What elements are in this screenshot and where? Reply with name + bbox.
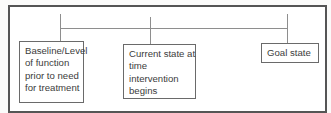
diagram-canvas: Baseline/Level of function prior to need…: [0, 0, 331, 113]
goal-state-node: Goal state: [261, 43, 319, 63]
baseline-tick: [60, 14, 61, 41]
current-label-line-1: Current state at: [129, 48, 191, 60]
current-label-line-3: intervention: [129, 73, 191, 85]
goal-label: Goal state: [267, 47, 314, 59]
baseline-label-line-3: prior to need: [25, 70, 79, 82]
baseline-label-line-4: for treatment: [25, 82, 79, 94]
goal-tick: [287, 14, 288, 43]
baseline-label-line-2: of function: [25, 57, 79, 69]
current-label-line-2: time: [129, 60, 191, 72]
current-label-line-4: begins: [129, 85, 191, 97]
timeline-line: [60, 28, 288, 29]
current-state-node: Current state at time intervention begin…: [123, 44, 196, 99]
baseline-node: Baseline/Level of function prior to need…: [19, 41, 84, 103]
current-tick: [150, 17, 151, 44]
baseline-label-line-1: Baseline/Level: [25, 45, 79, 57]
